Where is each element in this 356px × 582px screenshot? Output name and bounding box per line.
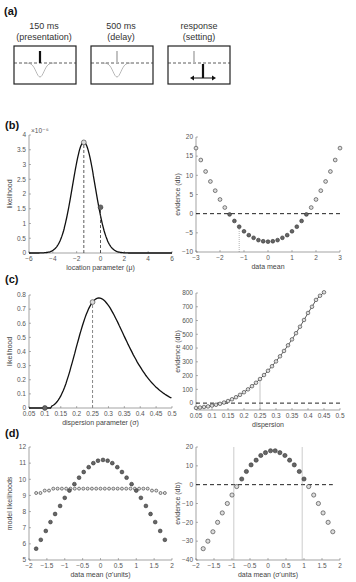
filled-point — [101, 458, 105, 462]
marker — [90, 300, 95, 305]
data-point — [285, 233, 289, 237]
data-point — [306, 311, 310, 315]
y-tick-label: 0.2 — [17, 376, 26, 383]
data-point — [194, 406, 198, 410]
y-tick-label: 20 — [186, 133, 194, 140]
open-point — [108, 487, 111, 490]
data-point — [273, 449, 277, 453]
x-tick-label: −0.5 — [76, 562, 89, 569]
data-point — [249, 463, 253, 467]
marker — [98, 205, 103, 210]
y-tick-label: 20 — [186, 443, 194, 450]
x-tick-label: 0.1 — [207, 412, 216, 419]
data-point — [199, 158, 203, 162]
open-point — [35, 492, 38, 495]
data-point — [278, 355, 282, 359]
open-point — [142, 487, 145, 490]
data-point — [331, 530, 335, 534]
x-tick-label: 6 — [170, 255, 174, 262]
open-point — [103, 487, 106, 490]
y-tick-label: 700 — [182, 303, 193, 310]
data-point — [290, 229, 294, 233]
data-point — [246, 388, 250, 392]
data-point — [230, 493, 234, 497]
data-point — [244, 469, 248, 473]
chart-d-left: −2−1.5−1−0.500.511.5256789101112data mea… — [6, 443, 174, 579]
open-point — [48, 489, 51, 492]
open-point — [150, 489, 153, 492]
x-tick-label: 3 — [338, 254, 342, 261]
marker — [81, 140, 86, 145]
data-point — [326, 520, 330, 524]
open-point — [120, 487, 123, 490]
data-point — [338, 146, 342, 150]
y-tick-label: 0 — [189, 210, 193, 217]
y-tick-label: 0.1 — [17, 390, 26, 397]
y-tick-label: 0 — [189, 481, 193, 488]
data-point — [218, 402, 222, 406]
y-tick-label: 400 — [182, 344, 193, 351]
y-tick-label: 5 — [22, 556, 26, 563]
data-point — [268, 449, 272, 453]
chart-b-right: −3−2−10123−10−505101520data meanevidence… — [174, 133, 342, 270]
filled-point — [130, 482, 134, 486]
x-tick-label: 1 — [290, 254, 294, 261]
x-tick-label: 1.5 — [150, 562, 159, 569]
x-tick-label: 0.45 — [318, 412, 331, 419]
x-axis-label: dispersion parameter (σ) — [62, 419, 139, 427]
y-tick-label: 500 — [182, 331, 193, 338]
filled-point — [153, 520, 157, 524]
data-point — [292, 463, 296, 467]
x-axis-label: data mean (σ'units) — [70, 571, 130, 579]
x-tick-label: 0.5 — [114, 562, 123, 569]
y-tick-label: 0.8 — [17, 291, 26, 298]
open-point — [43, 489, 46, 492]
data-point — [318, 294, 322, 298]
data-point — [302, 477, 306, 481]
data-point — [283, 453, 287, 457]
filled-point — [125, 476, 129, 480]
x-tick-label: −1 — [240, 254, 248, 261]
open-point — [99, 487, 102, 490]
data-point — [218, 198, 222, 202]
filled-point — [53, 512, 57, 516]
data-point — [223, 206, 227, 210]
data-point — [333, 158, 337, 162]
x-tick-label: 0.1 — [40, 410, 49, 417]
y-tick-label: 3 — [22, 161, 26, 168]
y-tick-label: 12 — [19, 443, 27, 450]
stimulus-frame — [14, 46, 76, 84]
data-point — [206, 405, 210, 409]
x-axis-label: dispersion — [252, 421, 284, 429]
y-tick-label: 15 — [186, 152, 194, 159]
data-point — [211, 530, 215, 534]
filled-point — [96, 459, 100, 463]
data-point — [316, 501, 320, 505]
y-tick-label: 3.5 — [17, 146, 26, 153]
x-tick-label: −1 — [61, 562, 69, 569]
x-tick-label: 0 — [266, 562, 270, 569]
open-point — [56, 487, 59, 490]
filled-point — [120, 470, 124, 474]
y-tick-label: 0.5 — [17, 334, 26, 341]
chart-c-left: 0.050.10.150.20.250.30.350.40.450.500.10… — [6, 291, 177, 427]
y-tick-label: 2 — [22, 190, 26, 197]
x-tick-label: 0.5 — [281, 562, 290, 569]
data-point — [206, 539, 210, 543]
y-tick-label: 1 — [22, 220, 26, 227]
filled-point — [58, 504, 62, 508]
x-tick-label: 2 — [123, 255, 127, 262]
likelihood-curve — [29, 298, 171, 408]
data-point — [305, 213, 309, 217]
y-axis-label: evidence (db) — [174, 330, 182, 372]
data-point — [314, 198, 318, 202]
x-tick-label: 0.15 — [222, 412, 235, 419]
data-point — [254, 458, 258, 462]
y-tick-label: −10 — [182, 500, 193, 507]
data-point — [307, 484, 311, 488]
open-point — [86, 487, 89, 490]
y-tick-label: −20 — [182, 519, 193, 526]
data-point — [204, 170, 208, 174]
data-point — [201, 547, 205, 551]
y-tick-label: 100 — [182, 386, 193, 393]
